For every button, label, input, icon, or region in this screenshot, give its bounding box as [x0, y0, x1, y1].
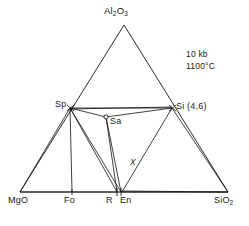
condition-temperature-label: 1100°C	[186, 62, 215, 71]
apex-label-sub-2: 2	[113, 10, 117, 17]
phase-label-fo: Fo	[64, 196, 75, 205]
apex-label-sub-3: 3	[124, 10, 128, 17]
tie-line-sa-en	[106, 117, 121, 192]
ternary-diagram-canvas	[0, 0, 249, 226]
phase-label-sp: Sp	[55, 100, 66, 109]
tie-line-network	[20, 107, 228, 192]
phase-label-si: Si (4,6)	[176, 102, 207, 111]
vertex-label-mgo: MgO	[8, 196, 28, 205]
marker-sa-point	[104, 115, 108, 119]
tie-line-si-sio2	[172, 108, 228, 192]
vertex-label-sio2-sub: 2	[230, 199, 234, 206]
tie-line-sp-fo	[70, 108, 72, 192]
vertex-label-sio2: SiO2	[214, 196, 233, 205]
tie-line-sa-r	[106, 117, 117, 192]
phase-label-sa: Sa	[110, 117, 121, 126]
tie-line-sp-sa	[70, 108, 106, 117]
condition-pressure-label: 10 kb	[186, 50, 208, 59]
tie-line-si-en	[122, 108, 172, 192]
phase-point-markers	[67, 105, 176, 196]
annotation-label-x: X	[130, 158, 136, 167]
phase-label-en: En	[120, 196, 131, 205]
phase-label-r: R	[106, 196, 113, 205]
apex-label-al: Al	[104, 5, 113, 16]
apex-label-al2o3: Al2O3	[104, 6, 128, 16]
phase-diagram-figure: Al2O3 10 kb 1100°C Sp Si (4,6) Sa X MgO …	[0, 0, 249, 226]
tie-line-sp-mgo-side	[20, 108, 70, 192]
vertex-label-sio2-main: SiO	[214, 195, 230, 205]
